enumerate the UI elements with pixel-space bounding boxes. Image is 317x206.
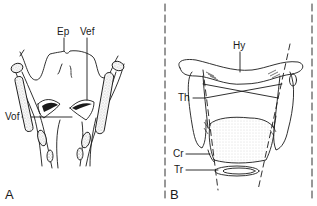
label-vof-vocal-fold: Vof [5, 112, 19, 122]
label-vef-ventricular-fold: Vef [80, 27, 94, 37]
label-ep-epiglottis: Ep [57, 27, 69, 37]
label-cr-cricoid: Cr [173, 149, 184, 159]
label-th-thyroid: Th [178, 93, 190, 103]
panel-letter-b: B [170, 188, 179, 201]
label-hy-hyoid: Hy [233, 41, 245, 51]
panel-letter-a: A [5, 188, 14, 201]
larynx-figure: Ep Vef Vof A [0, 0, 317, 206]
label-tr-trachea: Tr [174, 165, 183, 175]
